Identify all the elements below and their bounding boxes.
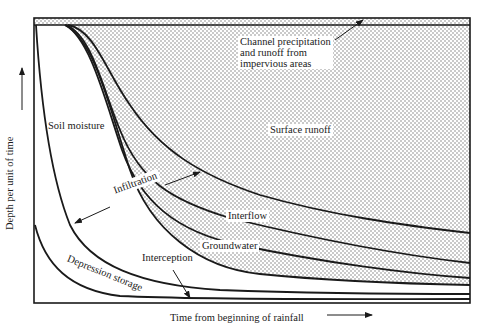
- channel-precipitation-label: Channel precipitation and runoff from im…: [238, 36, 333, 69]
- channel-precipitation-strip: [34, 18, 470, 25]
- surface-runoff-label: Surface runoff: [268, 124, 333, 136]
- interflow-label: Interflow: [226, 210, 269, 222]
- soil-moisture-label: Soil moisture: [46, 120, 106, 132]
- interception-arrow: [173, 270, 190, 298]
- x-axis-label: Time from beginning of rainfall: [170, 312, 304, 323]
- infiltration-arrow-left: [75, 207, 110, 223]
- groundwater-label: Groundwater: [200, 240, 259, 252]
- y-axis-label: Depth per unit of time: [4, 137, 15, 230]
- interception-label: Interception: [140, 252, 195, 264]
